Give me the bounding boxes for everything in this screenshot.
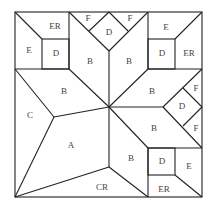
top-right-block [148, 12, 202, 69]
label-b-left: B [61, 86, 67, 96]
label-br-d: D [159, 156, 166, 166]
label-top-f-right: F [127, 13, 132, 23]
label-top-d: D [106, 27, 113, 37]
label-tr-e: E [163, 22, 169, 32]
label-tl-d: D [53, 48, 60, 58]
top-left-block [15, 12, 69, 69]
label-right-d: D [179, 101, 186, 111]
label-b-right-lower: B [151, 123, 157, 133]
label-cr: CR [96, 182, 108, 192]
label-right-f-bottom: F [193, 123, 198, 133]
label-br-e: E [186, 161, 192, 171]
label-top-f-left: F [85, 13, 90, 23]
quilt-block-diagram: ER E D F D F E D ER B B B B C A F D F B … [0, 0, 214, 213]
right-center-block [109, 69, 202, 148]
label-br-er: ER [158, 184, 170, 194]
label-c: C [27, 110, 33, 120]
label-b-bottom: B [128, 153, 134, 163]
label-tl-er: ER [49, 21, 61, 31]
label-tl-e: E [26, 45, 32, 55]
label-tr-d: D [159, 48, 166, 58]
label-b-right-upper: B [149, 86, 155, 96]
label-b-top-right: B [126, 56, 132, 66]
bottom-right-block [148, 148, 202, 197]
label-tr-er: ER [183, 48, 195, 58]
label-b-top-left: B [87, 56, 93, 66]
label-right-f-top: F [193, 83, 198, 93]
label-a: A [68, 140, 75, 150]
